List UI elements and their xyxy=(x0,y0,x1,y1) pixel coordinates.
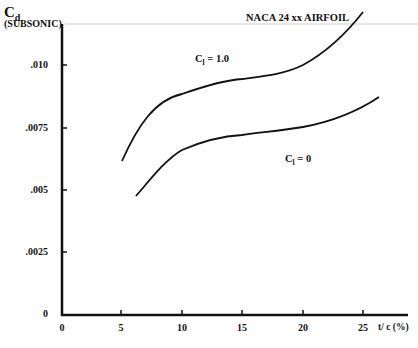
x-tick-label: 0 xyxy=(50,322,74,333)
curve-cl-0 xyxy=(136,97,379,196)
x-tick-label: 10 xyxy=(170,322,194,333)
x-tick-label: 5 xyxy=(109,322,133,333)
x-tick-label: 25 xyxy=(351,322,375,333)
x-tick-label: 15 xyxy=(230,322,254,333)
chart-title: NACA 24 xx AIRFOIL xyxy=(246,12,349,23)
y-tick-label: 0 xyxy=(0,308,48,319)
x-axis-label: t/ c (%) xyxy=(378,322,409,332)
y-tick-label: .010 xyxy=(0,59,48,70)
y-axis-sublabel: (SUBSONIC) xyxy=(4,18,62,29)
curve-label-cl-0: Cl = 0 xyxy=(285,153,311,167)
y-tick-label: .0075 xyxy=(0,122,48,133)
y-tick-label: .0025 xyxy=(0,246,48,257)
curve-label-cl-1.0: Cl = 1.0 xyxy=(195,53,229,67)
x-tick-label: 20 xyxy=(291,322,315,333)
y-tick-label: .005 xyxy=(0,184,48,195)
curve-cl-1.0 xyxy=(122,12,363,161)
